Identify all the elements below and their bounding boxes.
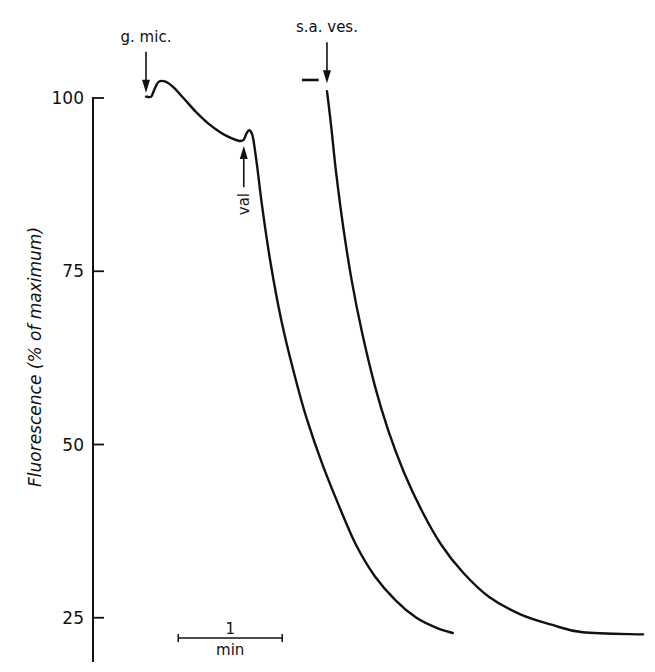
y-ticks: 100755025 bbox=[52, 88, 104, 628]
val-arrowhead-icon bbox=[240, 146, 248, 159]
fluorescence-chart: 100755025 Fluorescence (% of maximum) g.… bbox=[0, 0, 655, 672]
sa-ves-arrowhead-icon bbox=[323, 70, 331, 83]
g-mic-arrowhead-icon bbox=[142, 80, 150, 93]
series-group bbox=[146, 80, 643, 634]
g-mic-label: g. mic. bbox=[121, 28, 172, 46]
y-tick-label: 25 bbox=[62, 608, 84, 628]
annotations: g. mic.s.a. ves.val bbox=[121, 18, 358, 215]
scale-bar-unit: min bbox=[216, 641, 244, 659]
series-s-a-ves-line bbox=[327, 91, 643, 634]
y-tick-label: 100 bbox=[52, 88, 84, 108]
time-scale-bar: 1 min bbox=[178, 620, 282, 659]
sa-ves-label: s.a. ves. bbox=[296, 18, 358, 36]
series-g-mic-val-line bbox=[146, 81, 453, 633]
val-label: val bbox=[235, 193, 253, 215]
y-tick-label: 75 bbox=[62, 261, 84, 281]
y-tick-label: 50 bbox=[62, 435, 84, 455]
scale-bar-value: 1 bbox=[225, 620, 235, 638]
y-axis-label: Fluorescence (% of maximum) bbox=[25, 227, 45, 487]
